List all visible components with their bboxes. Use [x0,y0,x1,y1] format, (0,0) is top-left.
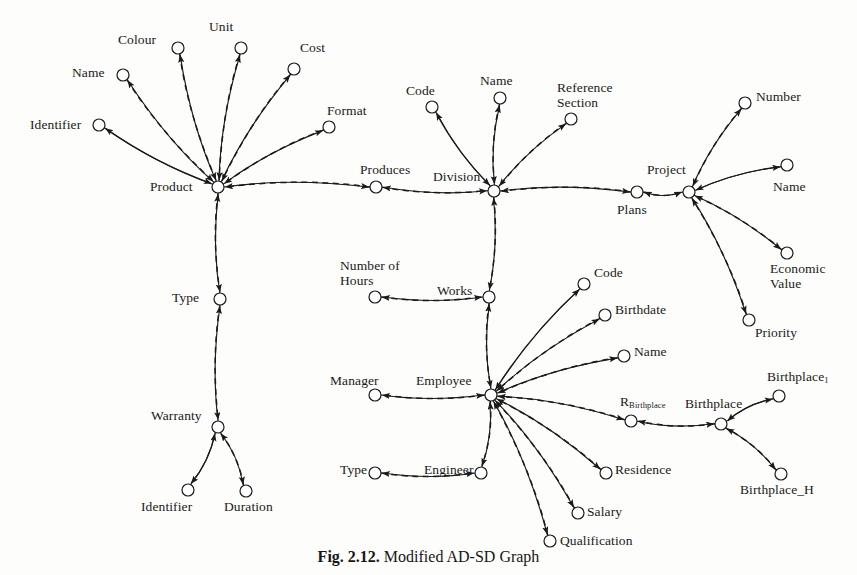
graph-node-birthplace[interactable] [715,418,727,430]
node-label-subscript-birthplace1: 1 [824,375,828,385]
graph-node-product[interactable] [212,181,224,193]
node-label-e_birthdate: Birthdate [615,303,666,318]
graph-edge-solid [381,395,484,399]
node-label-warranty: Warranty [151,409,202,424]
graph-node-project[interactable] [683,186,695,198]
graph-node-p_colour[interactable] [172,42,184,54]
graph-edge-dashed [498,396,625,420]
node-label-pr_name: Name [773,180,806,195]
graph-edge-dashed [695,196,782,250]
graph-node-p_unit[interactable] [235,42,247,54]
graph-edge-solid [223,131,322,185]
graph-node-type1[interactable] [214,293,226,305]
graph-edge-solid [493,401,547,534]
graph-node-e_qualification[interactable] [544,535,556,547]
node-label-subscript-e_rbirthplace: Birthplace [629,400,665,410]
node-label-product: Product [150,180,193,195]
graph-node-w_identifier[interactable] [182,484,194,496]
graph-edge-solid [692,197,746,313]
graph-edge-solid [191,434,215,485]
node-label-engineer: Engineer [424,463,474,478]
graph-edge-solid [180,55,216,181]
node-label-division: Division [433,170,480,185]
graph-node-e_residence[interactable] [600,467,612,479]
graph-node-e_rbirthplace[interactable] [625,415,637,427]
graph-node-e_code[interactable] [578,278,590,290]
graph-node-division[interactable] [488,185,500,197]
graph-edge-dashed [497,399,601,469]
node-label-manager: Manager [330,374,379,389]
node-label-p_format: Format [327,104,367,119]
graph-node-works[interactable] [483,291,495,303]
graph-node-p_format[interactable] [323,121,335,133]
graph-edge-solid [482,402,491,467]
graph-node-p_identifier[interactable] [93,119,105,131]
graph-edge-dashed [180,54,216,180]
graph-node-birthplace1[interactable] [773,390,785,402]
graph-edge-solid [726,428,776,469]
graph-edge-solid [497,396,624,420]
graph-node-pr_economicvalue[interactable] [781,247,793,259]
graph-node-p_name[interactable] [117,69,129,81]
graph-node-numberofhours[interactable] [369,291,381,303]
node-label-employee: Employee [416,374,472,389]
graph-node-pr_number[interactable] [739,97,751,109]
node-label-type1: Type [172,291,199,306]
graph-edge-solid [106,129,213,185]
graph-node-e_birthdate[interactable] [599,309,611,321]
node-label-p_unit: Unit [209,20,233,35]
node-label-p_name: Name [72,66,105,81]
graph-edge-solid [495,290,579,391]
graph-edge-dashed [727,429,777,470]
node-label-p_identifier: Identifier [30,118,81,133]
graph-edge-solid [215,307,220,422]
graph-edge-dashed [221,434,244,486]
graph-edge-solid [219,55,240,181]
graph-edge-dashed [222,74,291,181]
graph-node-e_type[interactable] [369,467,381,479]
node-label-pr_number: Number [756,90,801,105]
graph-node-w_duration[interactable] [240,485,252,497]
node-label-d_code: Code [406,84,435,99]
graph-edge-dashed [500,123,567,186]
graph-edge-solid [220,433,243,485]
node-label-e_salary: Salary [587,505,622,520]
graph-edge-dashed [494,402,548,535]
graph-node-d_name[interactable] [494,92,506,104]
node-label-e_type: Type [340,463,367,478]
node-label-produces: Produces [360,163,410,178]
node-label-e_name: Name [634,345,667,360]
graph-node-engineer[interactable] [475,467,487,479]
graph-node-e_salary[interactable] [572,507,584,519]
graph-node-employee[interactable] [485,389,497,401]
graph-edge-solid [637,421,714,426]
graph-edge-dashed [692,199,746,315]
graph-edge-dashed [498,358,618,393]
node-label-birthplace: Birthplace [685,397,742,412]
graph-edge-dashed [219,54,240,180]
node-label-works: Works [437,284,472,299]
graph-node-e_name[interactable] [618,350,630,362]
graph-node-warranty[interactable] [212,421,224,433]
node-label-d_refsection: Reference Section [557,81,613,110]
graph-node-birthplace_h[interactable] [775,468,787,480]
graph-node-p_cost[interactable] [288,63,300,75]
graph-node-plans[interactable] [631,186,643,198]
node-label-pr_priority: Priority [755,326,797,341]
graph-node-pr_name[interactable] [781,159,793,171]
graph-node-pr_priority[interactable] [743,314,755,326]
node-label-p_colour: Colour [118,33,156,48]
graph-node-manager[interactable] [369,389,381,401]
figure-caption: Fig. 2.12. Modified AD-SD Graph [0,548,857,566]
graph-node-produces[interactable] [370,181,382,193]
node-label-d_name: Name [480,74,513,89]
graph-edge-dashed [382,187,487,192]
graph-edge-dashed [225,130,324,184]
node-label-numberofhours: Number of Hours [340,259,400,288]
graph-edge-solid [496,319,599,391]
graph-node-d_refsection[interactable] [565,113,577,125]
node-label-e_residence: Residence [615,463,671,478]
figure-caption-number: Fig. 2.12. [318,548,380,565]
node-label-p_cost: Cost [300,41,325,56]
graph-node-d_code[interactable] [426,101,438,113]
